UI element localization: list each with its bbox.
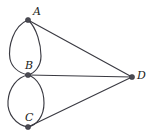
vertex-label-b: B — [25, 60, 33, 71]
vertex-label-a: A — [33, 6, 41, 17]
geometry-figure: A B C D — [0, 0, 148, 136]
edge-line-a-d — [28, 20, 132, 77]
figure-canvas — [0, 0, 148, 136]
vertex-dot-c — [25, 124, 30, 129]
vertex-dot-b — [25, 72, 30, 77]
vertex-dot-a — [25, 17, 30, 22]
vertex-label-c: C — [25, 112, 33, 123]
vertex-dot-d — [129, 74, 134, 79]
vertex-label-d: D — [137, 70, 146, 81]
edge-line-b-d — [28, 75, 132, 77]
